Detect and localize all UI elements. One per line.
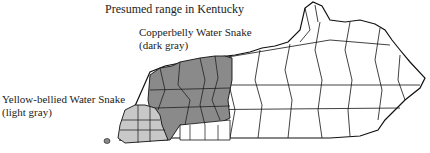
kentucky-bend-exclave: [104, 139, 110, 144]
kentucky-county-map: [0, 0, 430, 153]
